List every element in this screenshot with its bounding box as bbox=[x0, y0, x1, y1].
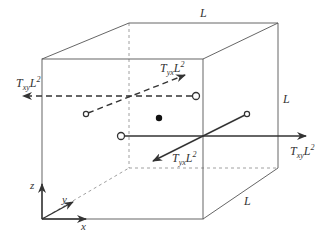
axis-label-y: y bbox=[61, 193, 67, 205]
origin-marker-icon bbox=[193, 93, 200, 100]
label-right-L: L bbox=[282, 92, 290, 106]
axis-label-z: z bbox=[29, 179, 35, 191]
label-top-L: L bbox=[199, 6, 207, 20]
center-dot-icon bbox=[156, 115, 162, 121]
origin-marker-icon bbox=[118, 133, 125, 140]
force-left-dashed bbox=[23, 93, 200, 100]
coordinate-axes: z y x bbox=[29, 179, 86, 232]
origin-marker-icon bbox=[83, 111, 88, 116]
label-force-front: TyxL2 bbox=[172, 150, 196, 167]
label-force-right: TxyL2 bbox=[290, 143, 314, 160]
label-force-back: TyxL2 bbox=[160, 60, 184, 77]
label-force-left: TxyL2 bbox=[16, 75, 40, 92]
axis-label-x: x bbox=[80, 220, 86, 232]
origin-marker-icon bbox=[244, 111, 249, 116]
label-depth-L: L bbox=[243, 194, 251, 208]
cube-diagram: L L L TxyL2 TyxL2 TyxL2 TxyL2 z y x bbox=[0, 0, 327, 240]
